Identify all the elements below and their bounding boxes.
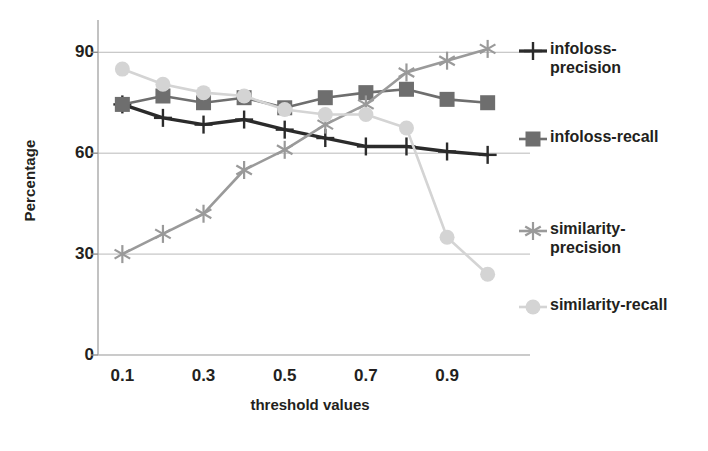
legend-key-glyph <box>519 132 547 147</box>
legend-item-infoloss-precision[interactable]: infoloss- precision <box>518 40 621 78</box>
marker-circle <box>196 85 211 100</box>
chart-figure: Percentage 0306090 0.10.30.50.70.9 thres… <box>0 0 708 451</box>
marker-circle <box>526 300 541 315</box>
marker-circle <box>277 102 292 117</box>
marker-circle <box>115 62 130 77</box>
legend-item-similarity-recall[interactable]: similarity-recall <box>518 296 667 317</box>
legend-marker-circle-icon <box>518 297 548 317</box>
series-line <box>122 49 487 254</box>
marker-square <box>399 82 414 97</box>
marker-circle <box>440 230 455 245</box>
marker-square <box>526 132 541 147</box>
marker-circle <box>358 107 373 122</box>
legend-marker-square-icon <box>518 129 548 149</box>
marker-circle <box>318 107 333 122</box>
marker-circle <box>155 77 170 92</box>
legend-key-glyph <box>519 300 547 315</box>
x-axis-title: threshold values <box>100 396 520 413</box>
chart-legend: infoloss- precisioninfoloss-recallsimila… <box>518 24 703 334</box>
legend-item-similarity-precision[interactable]: similarity- precision <box>518 220 626 258</box>
legend-label: infoloss- precision <box>550 40 621 78</box>
legend-item-infoloss-recall[interactable]: infoloss-recall <box>518 128 658 149</box>
marker-circle <box>237 89 252 104</box>
legend-label: similarity- precision <box>550 220 626 258</box>
marker-square <box>440 92 455 107</box>
series-line <box>122 69 487 274</box>
marker-square <box>318 90 333 105</box>
legend-marker-asterisk-icon <box>518 221 548 241</box>
series-line <box>122 89 487 108</box>
marker-square <box>480 95 495 110</box>
marker-square <box>115 97 130 112</box>
marker-circle <box>480 267 495 282</box>
legend-key-glyph <box>519 42 547 60</box>
legend-key-glyph <box>519 222 547 240</box>
legend-marker-plus-icon <box>518 41 548 61</box>
series-similarity-recall <box>115 62 495 282</box>
marker-circle <box>399 120 414 135</box>
legend-label: similarity-recall <box>550 296 667 315</box>
legend-label: infoloss-recall <box>550 128 658 147</box>
